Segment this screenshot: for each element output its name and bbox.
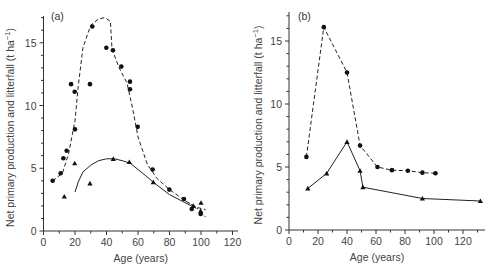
x-tick-label: 120	[454, 235, 472, 247]
x-tick-label: 0	[41, 236, 47, 248]
npp-point	[50, 179, 55, 184]
npp-point	[128, 87, 133, 92]
npp-point	[58, 171, 63, 176]
x-axis-label: Age (years)	[114, 252, 168, 264]
x-tick-label: 40	[341, 235, 353, 247]
npp-point	[150, 167, 155, 172]
x-tick-label: 60	[132, 236, 144, 248]
npp-point	[375, 165, 380, 170]
panel-b: 020406080100120051015Age (years)Net prim…	[251, 10, 485, 263]
npp-point	[322, 25, 327, 30]
npp-line	[306, 27, 435, 173]
litterfall-point	[87, 181, 92, 186]
npp-point	[119, 64, 124, 69]
litterfall-point	[324, 171, 329, 176]
chart-svg: 020406080100120051015Age (years)Net prim…	[0, 0, 494, 271]
x-tick-label: 100	[425, 235, 443, 247]
litterfall-point	[360, 185, 365, 190]
x-tick-label: 20	[312, 235, 324, 247]
npp-point	[167, 187, 172, 192]
npp-point	[90, 24, 95, 29]
npp-point	[304, 155, 309, 160]
litterfall-point	[198, 208, 203, 213]
panel-a: 020406080100120051015Age (years)Net prim…	[3, 10, 241, 264]
npp-point	[390, 168, 395, 173]
npp-point	[64, 148, 69, 153]
npp-point	[433, 171, 438, 176]
figure: 020406080100120051015Age (years)Net prim…	[0, 0, 494, 271]
litterfall-line	[75, 159, 196, 209]
npp-line	[53, 18, 206, 210]
litterfall-point	[62, 194, 67, 199]
y-axis-label: Net primary production and litterfall (t…	[251, 26, 264, 225]
npp-point	[88, 82, 93, 87]
npp-point	[406, 168, 411, 173]
y-tick-label: 0	[276, 224, 282, 236]
y-tick-label: 10	[270, 98, 282, 110]
y-axis-label: Net primary production and litterfall (t…	[3, 28, 16, 227]
y-tick-label: 0	[31, 225, 37, 237]
x-tick-label: 20	[69, 236, 81, 248]
litterfall-point	[357, 168, 362, 173]
panel-label: (a)	[51, 10, 64, 22]
npp-point	[104, 45, 109, 50]
npp-point	[345, 70, 350, 75]
x-tick-label: 80	[399, 235, 411, 247]
x-tick-label: 100	[192, 236, 210, 248]
npp-point	[420, 170, 425, 175]
npp-point	[128, 79, 133, 84]
x-tick-label: 40	[101, 236, 113, 248]
litterfall-line	[308, 142, 481, 201]
npp-point	[358, 143, 363, 148]
litterfall-point	[198, 200, 203, 205]
y-tick-label: 15	[270, 35, 282, 47]
npp-point	[61, 156, 66, 161]
npp-point	[69, 82, 74, 87]
litterfall-point	[127, 159, 132, 164]
x-tick-label: 80	[164, 236, 176, 248]
litterfall-point	[344, 139, 349, 144]
y-tick-label: 15	[25, 37, 37, 49]
x-axis-label: Age (years)	[350, 251, 404, 263]
npp-point	[73, 127, 78, 132]
x-tick-label: 120	[224, 236, 242, 248]
npp-point	[72, 89, 77, 94]
y-tick-label: 10	[25, 100, 37, 112]
y-tick-label: 5	[31, 162, 37, 174]
panel-label: (b)	[298, 10, 311, 22]
litterfall-point	[72, 161, 77, 166]
y-tick-label: 5	[276, 161, 282, 173]
x-tick-label: 60	[370, 235, 382, 247]
x-tick-label: 0	[286, 235, 292, 247]
npp-point	[135, 125, 140, 130]
npp-point	[111, 48, 116, 53]
